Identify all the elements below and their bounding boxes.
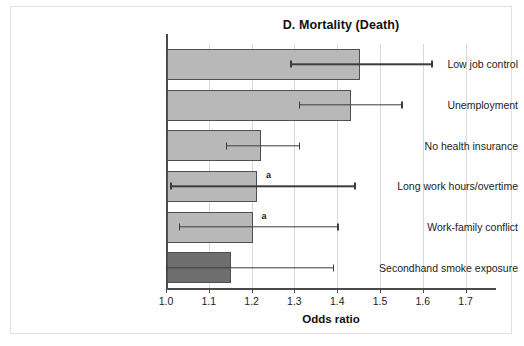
- category-label: Work-family conflict: [368, 221, 524, 233]
- error-bar-cap-low: [179, 224, 180, 231]
- x-tick-label: 1.1: [201, 295, 216, 307]
- gridline: [380, 44, 381, 288]
- figure-container: D. Mortality (Death) aa Low job controlU…: [0, 0, 524, 346]
- error-bar-line: [166, 267, 333, 268]
- gridline: [294, 44, 295, 288]
- error-bar-line: [226, 145, 299, 146]
- x-tick: [166, 288, 167, 293]
- error-bar-cap-low: [290, 61, 291, 68]
- gridline: [252, 44, 253, 288]
- chart-title: D. Mortality (Death): [186, 18, 496, 32]
- error-bar-line: [170, 186, 354, 187]
- category-label: Long work hours/overtime: [368, 180, 524, 192]
- x-tick-label: 1.0: [159, 295, 174, 307]
- error-bar-line: [179, 226, 337, 227]
- plot-area: D. Mortality (Death) aa Low job controlU…: [0, 0, 524, 346]
- x-axis-line: [166, 288, 496, 290]
- x-tick: [380, 288, 381, 293]
- error-bar-cap-low: [166, 264, 167, 271]
- error-bar-cap-high: [333, 264, 334, 271]
- category-label: Unemployment: [368, 99, 524, 111]
- error-bar-cap-high: [354, 183, 355, 190]
- category-label: Low job control: [368, 58, 524, 70]
- error-bar-cap-high: [337, 224, 338, 231]
- x-tick-label: 1.4: [330, 295, 345, 307]
- x-tick-label: 1.6: [415, 295, 430, 307]
- x-tick-label: 1.7: [458, 295, 473, 307]
- error-bar-cap-low: [226, 142, 227, 149]
- significance-annotation: a: [266, 170, 271, 180]
- x-tick: [294, 288, 295, 293]
- x-tick-label: 1.5: [373, 295, 388, 307]
- x-tick: [337, 288, 338, 293]
- error-bar-cap-low: [299, 102, 300, 109]
- gridline: [337, 44, 338, 288]
- category-label: Secondhand smoke exposure: [368, 262, 524, 274]
- category-label: No health insurance: [368, 140, 524, 152]
- error-bar-cap-low: [170, 183, 171, 190]
- x-tick-label: 1.3: [287, 295, 302, 307]
- x-tick: [466, 288, 467, 293]
- x-tick: [209, 288, 210, 293]
- x-tick: [252, 288, 253, 293]
- error-bar-cap-high: [299, 142, 300, 149]
- x-tick: [423, 288, 424, 293]
- gridline: [423, 44, 424, 288]
- x-tick-label: 1.2: [244, 295, 259, 307]
- significance-annotation: a: [262, 211, 267, 221]
- x-axis-title: Odds ratio: [166, 313, 496, 325]
- gridline: [466, 44, 467, 288]
